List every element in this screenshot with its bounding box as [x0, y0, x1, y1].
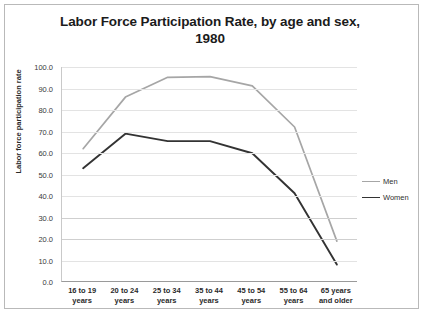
legend-item-men[interactable]: Men: [362, 173, 418, 189]
chart-legend: MenWomen: [362, 173, 418, 205]
x-axis-tick: 65 years and older: [315, 286, 357, 315]
y-axis-tick: 0.0: [43, 278, 53, 287]
plot-area: [61, 67, 357, 282]
gridline: [62, 261, 357, 262]
y-axis-tick: 60.0: [38, 149, 53, 158]
gridline: [62, 132, 357, 133]
x-axis-tick-labels: 16 to 19 years20 to 24 years25 to 34 yea…: [61, 286, 357, 315]
x-axis-tick: 55 to 64 years: [272, 286, 314, 315]
y-axis-tick: 40.0: [38, 192, 53, 201]
chart-title: Labor Force Participation Rate, by age a…: [45, 13, 375, 47]
y-axis-tick: 30.0: [38, 213, 53, 222]
y-axis-tick-labels: 100.090.080.070.060.050.040.030.020.010.…: [5, 59, 57, 291]
x-axis-tick: 20 to 24 years: [103, 286, 145, 315]
gridline: [62, 218, 357, 219]
x-axis-tick: 25 to 34 years: [146, 286, 188, 315]
x-axis-tick: 16 to 19 years: [61, 286, 103, 315]
x-axis-tick: 45 to 54 years: [230, 286, 272, 315]
gridline: [62, 239, 357, 240]
x-axis-tick: 35 to 44 years: [188, 286, 230, 315]
gridline: [62, 67, 357, 68]
gridline: [62, 196, 357, 197]
legend-item-women[interactable]: Women: [362, 189, 418, 205]
gridline: [62, 153, 357, 154]
gridline: [62, 110, 357, 111]
y-axis-tick: 50.0: [38, 170, 53, 179]
legend-label: Men: [383, 177, 398, 186]
y-axis-tick: 10.0: [38, 256, 53, 265]
gridline: [62, 89, 357, 90]
y-axis-tick: 80.0: [38, 106, 53, 115]
y-axis-tick: 70.0: [38, 127, 53, 136]
series-line-men: [83, 77, 337, 241]
gridline: [62, 175, 357, 176]
chart-frame: Labor Force Participation Rate, by age a…: [4, 4, 419, 309]
y-axis-tick: 90.0: [38, 84, 53, 93]
chart-title-line-2: 1980: [195, 31, 225, 46]
legend-swatch-icon: [362, 181, 380, 182]
legend-swatch-icon: [362, 197, 380, 198]
y-axis-tick: 20.0: [38, 235, 53, 244]
y-axis-tick: 100.0: [34, 63, 53, 72]
legend-label: Women: [383, 193, 409, 202]
chart-title-line-1: Labor Force Participation Rate, by age a…: [60, 14, 360, 29]
